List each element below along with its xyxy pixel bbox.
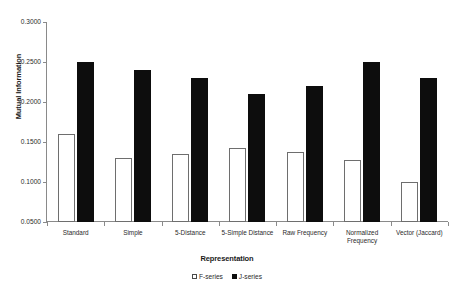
x-axis-category-label: 5-Simple Distance <box>219 229 276 237</box>
x-axis-category-label: Simple <box>104 229 161 237</box>
bar-j-series-5-distance <box>191 78 208 222</box>
bar-f-series-simple <box>115 158 132 222</box>
x-axis-tick-mark <box>162 222 163 226</box>
bar-f-series-5-distance <box>172 154 189 222</box>
bar-j-series-vector-jaccard <box>420 78 437 222</box>
x-axis-category-labels: StandardSimple5-Distance5-Simple Distanc… <box>47 229 448 251</box>
bar-group <box>104 22 161 222</box>
bar-j-series-simple <box>134 70 151 222</box>
legend-label: J-series <box>239 273 262 280</box>
y-axis-tick-label: 0.3000 <box>7 19 41 26</box>
bar-group <box>333 22 390 222</box>
y-axis-tick-label: 0.1000 <box>7 179 41 186</box>
bar-j-series-raw-frequency <box>306 86 323 222</box>
bar-j-series-normalized-frequency <box>363 62 380 222</box>
bar-j-series-standard <box>77 62 94 222</box>
bar-f-series-vector-jaccard <box>401 182 418 222</box>
chart-legend: F-seriesJ-series <box>0 273 454 280</box>
bar-group <box>276 22 333 222</box>
y-axis-tick-labels: 0.05000.10000.15000.20000.25000.3000 <box>0 0 41 293</box>
x-axis-tick-mark <box>276 222 277 226</box>
bar-chart: Mutual Information 0.05000.10000.15000.2… <box>0 0 454 293</box>
filled-square-icon <box>232 274 237 279</box>
legend-entry-j-series: J-series <box>232 273 262 280</box>
bar-j-series-5-simple-distance <box>248 94 265 222</box>
x-axis-tick-mark <box>47 222 48 226</box>
bar-f-series-5-simple-distance <box>229 148 246 222</box>
bar-group <box>219 22 276 222</box>
x-axis-tick-mark <box>104 222 105 226</box>
y-axis-tick-label: 0.0500 <box>7 219 41 226</box>
x-axis-tick-marks <box>47 222 448 227</box>
y-axis-tick-label: 0.2000 <box>7 99 41 106</box>
x-axis-category-label: 5-Distance <box>162 229 219 237</box>
x-axis-title: Representation <box>0 254 454 263</box>
bar-f-series-normalized-frequency <box>344 160 361 222</box>
x-axis-tick-mark <box>448 222 449 226</box>
bar-group <box>391 22 448 222</box>
x-axis-tick-mark <box>219 222 220 226</box>
bar-group <box>47 22 104 222</box>
y-axis-tick-label: 0.2500 <box>7 59 41 66</box>
x-axis-category-label: Normalized Frequency <box>333 229 390 245</box>
hollow-square-icon <box>192 274 197 279</box>
x-axis-category-label: Standard <box>47 229 104 237</box>
x-axis-tick-mark <box>333 222 334 226</box>
bar-f-series-raw-frequency <box>287 152 304 222</box>
legend-label: F-series <box>199 273 223 280</box>
x-axis-category-label: Raw Frequency <box>276 229 333 237</box>
plot-area <box>47 22 448 222</box>
bar-f-series-standard <box>58 134 75 222</box>
legend-entry-f-series: F-series <box>192 273 223 280</box>
y-axis-tick-label: 0.1500 <box>7 139 41 146</box>
bar-group <box>162 22 219 222</box>
x-axis-tick-mark <box>391 222 392 226</box>
x-axis-category-label: Vector (Jaccard) <box>391 229 448 237</box>
